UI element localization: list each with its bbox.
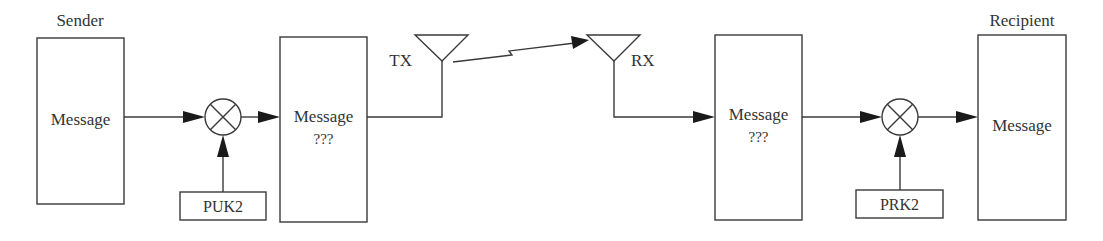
encryption-flow-diagram: Sender Message PUK2 Message ??? TX RX Me…	[0, 0, 1103, 241]
ciphertext-rx-line2: ???	[749, 129, 769, 145]
arrowhead-icon	[258, 111, 280, 123]
tx-label: TX	[389, 51, 412, 70]
arrowhead-icon	[183, 111, 205, 123]
decryption-mixer-icon	[882, 99, 918, 135]
private-key-label: PRK2	[880, 196, 919, 213]
arrowhead-icon	[860, 111, 882, 123]
recipient-title: Recipient	[989, 11, 1054, 30]
sender-title: Sender	[56, 11, 104, 30]
arrowhead-icon	[894, 135, 906, 157]
ciphertext-box-tx	[280, 37, 367, 222]
arrowhead-icon	[571, 36, 589, 49]
recipient-message-label: Message	[992, 116, 1051, 135]
rx-label: RX	[631, 51, 655, 70]
ciphertext-tx-line2: ???	[314, 131, 334, 147]
sender-message-label: Message	[51, 110, 110, 129]
wireless-link-line	[453, 43, 575, 62]
ciphertext-tx-line1: Message	[294, 107, 353, 126]
rx-to-ciphertext-line	[614, 61, 700, 117]
arrowhead-icon	[956, 111, 978, 123]
public-key-label: PUK2	[203, 198, 243, 215]
ciphertext-box-rx	[715, 35, 802, 220]
arrowhead-icon	[217, 135, 229, 157]
ciphertext-rx-line1: Message	[729, 105, 788, 124]
tx-antenna-icon	[415, 35, 468, 61]
encryption-mixer-icon	[205, 99, 241, 135]
arrowhead-icon	[693, 111, 715, 123]
